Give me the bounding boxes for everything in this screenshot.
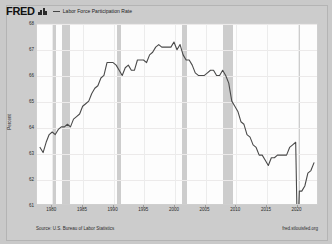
y-axis-labels: 6867666564636261 xyxy=(18,23,34,205)
x-tick-label: 2020 xyxy=(292,207,302,212)
x-tick-mark xyxy=(82,205,83,207)
series-line xyxy=(37,24,317,204)
x-tick-label: 2005 xyxy=(200,207,210,212)
plot-area[interactable] xyxy=(36,23,318,205)
source-label: Source: U.S. Bureau of Labor Statistics xyxy=(36,226,114,231)
x-tick-mark xyxy=(266,205,267,207)
chart-footer: Source: U.S. Bureau of Labor Statistics … xyxy=(36,224,318,233)
y-tick-label: 61 xyxy=(29,203,34,208)
legend-line-icon xyxy=(53,11,60,12)
x-tick-mark xyxy=(51,205,52,207)
y-tick-label: 64 xyxy=(29,125,34,130)
x-tick-mark xyxy=(297,205,298,207)
y-tick-label: 66 xyxy=(29,73,34,78)
x-tick-label: 2010 xyxy=(230,207,240,212)
x-tick-mark xyxy=(113,205,114,207)
chart-legend: Labor Force Participation Rate xyxy=(53,8,132,14)
x-tick-label: 1985 xyxy=(77,207,87,212)
x-tick-mark xyxy=(143,205,144,207)
legend-label: Labor Force Participation Rate xyxy=(63,8,132,14)
x-axis-labels: 198019851990199520002005201020152020 xyxy=(36,207,318,217)
x-tick-mark xyxy=(235,205,236,207)
y-tick-label: 63 xyxy=(29,151,34,156)
y-tick-label: 68 xyxy=(29,21,34,26)
x-tick-label: 2000 xyxy=(169,207,179,212)
fred-logo[interactable]: FRED xyxy=(6,6,35,17)
y-axis-title: Percent xyxy=(7,114,12,130)
x-tick-label: 1990 xyxy=(108,207,118,212)
x-tick-label: 2015 xyxy=(261,207,271,212)
x-tick-label: 1995 xyxy=(138,207,148,212)
fred-chart-screenshot: FRED Labor Force Participation Rate Perc… xyxy=(0,0,332,244)
y-tick-label: 65 xyxy=(29,99,34,104)
bar-chart-icon xyxy=(38,7,47,15)
x-tick-mark xyxy=(174,205,175,207)
fred-url-label[interactable]: fred.stlouisfed.org xyxy=(282,226,318,231)
plot-area-wrapper xyxy=(36,23,318,205)
chart-header: FRED Labor Force Participation Rate xyxy=(6,4,132,18)
y-tick-label: 67 xyxy=(29,47,34,52)
y-tick-label: 62 xyxy=(29,177,34,182)
x-tick-label: 1980 xyxy=(46,207,56,212)
x-tick-mark xyxy=(205,205,206,207)
